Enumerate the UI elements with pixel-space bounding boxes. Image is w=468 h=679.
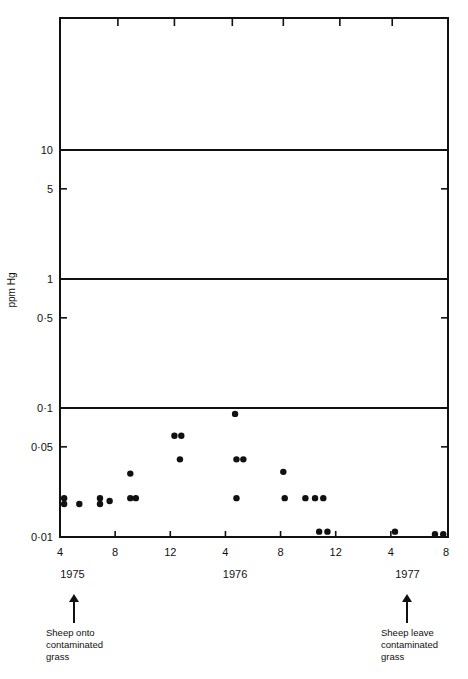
arrow-up-icon-end	[406, 601, 408, 623]
data-point	[240, 456, 246, 462]
data-point	[432, 531, 438, 537]
data-point	[302, 495, 308, 501]
data-point	[392, 528, 398, 534]
annotation-line: grass	[381, 651, 438, 663]
annotation-line: contaminated	[381, 639, 438, 651]
data-point	[106, 498, 112, 504]
data-point	[320, 495, 326, 501]
x-tick-label: 12	[330, 546, 342, 558]
data-point	[76, 501, 82, 507]
annotation-line: Sheep leave	[381, 627, 438, 639]
mercury-scatter-chart: 0·010·050·10·51510 481248124819751976197…	[0, 0, 468, 679]
data-point	[316, 528, 322, 534]
data-point	[282, 495, 288, 501]
y-tick-label: 0·5	[37, 312, 53, 324]
data-point	[324, 528, 330, 534]
data-point	[233, 495, 239, 501]
y-tick-label: 1	[47, 273, 53, 285]
data-point	[133, 495, 139, 501]
year-label: 1977	[395, 568, 419, 580]
x-tick-label: 8	[443, 546, 449, 558]
data-point	[61, 495, 67, 501]
data-point	[61, 501, 67, 507]
y-axis-label: ppm Hg	[6, 272, 17, 307]
annotation-sheep-onto: Sheep onto contaminated grass	[46, 627, 103, 663]
plot-border	[60, 18, 448, 537]
annotation-sheep-leave: Sheep leave contaminated grass	[381, 627, 438, 663]
data-point	[127, 470, 133, 476]
data-point	[97, 501, 103, 507]
x-tick-label: 8	[112, 546, 118, 558]
data-point	[127, 495, 133, 501]
annotation-line: Sheep onto	[46, 627, 103, 639]
year-label: 1976	[223, 568, 247, 580]
year-label: 1975	[60, 568, 84, 580]
x-tick-label: 4	[388, 546, 394, 558]
x-tick-label: 4	[222, 546, 228, 558]
data-point	[232, 411, 238, 417]
data-point	[178, 432, 184, 438]
y-tick-label: 5	[47, 183, 53, 195]
data-points	[61, 411, 447, 538]
annotation-line: contaminated	[46, 639, 103, 651]
data-point	[233, 456, 239, 462]
y-tick-label: 0·05	[31, 441, 53, 453]
x-tick-label: 8	[278, 546, 284, 558]
plot-frame	[60, 18, 448, 537]
x-tick-label: 12	[164, 546, 176, 558]
y-tick-label: 0·1	[37, 402, 53, 414]
data-point	[97, 495, 103, 501]
y-tick-label: 10	[41, 144, 53, 156]
decade-lines	[60, 150, 448, 408]
x-tick-label: 4	[57, 546, 63, 558]
arrow-up-icon-start	[73, 601, 75, 623]
data-point	[312, 495, 318, 501]
y-axis-ticks: 0·010·050·10·51510	[31, 144, 448, 543]
data-point	[440, 531, 446, 537]
annotation-line: grass	[46, 651, 103, 663]
data-point	[171, 432, 177, 438]
data-point	[177, 456, 183, 462]
y-tick-label: 0·01	[31, 531, 53, 543]
data-point	[280, 469, 286, 475]
x-axis-ticks: 4812481248197519761977	[57, 18, 449, 580]
